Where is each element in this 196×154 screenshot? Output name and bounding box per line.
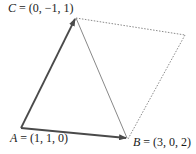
edge-c-b: [76, 18, 127, 138]
label-point-a: A = (1, 1, 0): [10, 132, 68, 144]
label-point-c: C = (0, −1, 1): [8, 2, 74, 14]
dotted-edge-d-b: [128, 35, 185, 139]
point-a-coords: = (1, 1, 0): [17, 131, 68, 145]
point-c-name: C: [8, 1, 16, 15]
vector-a-c: [21, 19, 75, 128]
label-point-b: B = (3, 0, 2): [133, 136, 191, 148]
point-c-coords: = (0, −1, 1): [16, 1, 74, 15]
point-b-coords: = (3, 0, 2): [140, 135, 191, 149]
dotted-edge-c-d: [76, 18, 185, 35]
